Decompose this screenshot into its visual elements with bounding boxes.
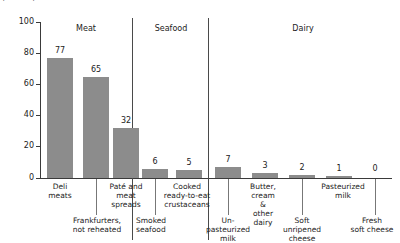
x-label-butter-line1: Butter, xyxy=(240,182,286,191)
x-label-fresh-soft-cheese: Fresh soft cheese xyxy=(344,216,400,234)
group-header-meat: Meat xyxy=(46,24,126,33)
bar-soft-unripened-cheese xyxy=(289,175,315,178)
bar-butter-cream-other-dairy xyxy=(252,173,278,178)
x-label-soft-line1: Soft xyxy=(277,216,327,225)
bar-value-fresh-soft-cheese: 0 xyxy=(362,165,388,173)
x-label-frankfurters-line1: Frankfurters, xyxy=(64,216,130,225)
bar-value-smoked-seafood: 6 xyxy=(142,158,168,166)
x-label-pate-line3: spreads xyxy=(99,200,153,209)
bar-value-deli-meats: 77 xyxy=(47,47,73,55)
x-label-deli-meats: Deli meats xyxy=(40,182,80,200)
bar-pasteurized-milk xyxy=(326,176,352,178)
x-label-unpasteurized-milk: Un- pasteurized milk xyxy=(204,216,252,243)
y-tick-label-20: 20 xyxy=(6,142,34,150)
x-label-butter-line3: & xyxy=(240,200,286,209)
x-label-pate-line2: meat xyxy=(99,191,153,200)
y-tick-mark-20 xyxy=(36,146,41,147)
y-tick-label-0: 0 xyxy=(6,174,34,182)
connector-unpasteurized-milk xyxy=(228,179,229,215)
y-tick-mark-40 xyxy=(36,115,41,116)
bar-pate-meat-spreads xyxy=(113,128,139,178)
x-label-pasteurized-line1: Pasteurized xyxy=(310,182,376,191)
x-label-fresh-line2: soft cheese xyxy=(344,225,400,234)
x-label-cooked-line3: crustaceans xyxy=(160,200,214,209)
x-label-smoked-seafood: Smoked seafood xyxy=(136,216,182,234)
x-label-frankfurters-line2: not reheated xyxy=(64,225,130,234)
bar-frankfurters xyxy=(83,77,109,178)
bar-value-frankfurters: 65 xyxy=(83,66,109,74)
x-label-cooked-crustaceans: Cooked ready-to-eat crustaceans xyxy=(160,182,214,209)
y-axis-line xyxy=(40,22,41,178)
bar-value-cooked-crustaceans: 5 xyxy=(176,159,202,167)
x-label-cooked-line2: ready-to-eat xyxy=(160,191,214,200)
y-tick-label-100: 100 xyxy=(6,18,34,26)
x-label-fresh-line1: Fresh xyxy=(344,216,400,225)
x-axis-baseline xyxy=(40,178,392,179)
bar-value-unpasteurized-milk: 7 xyxy=(215,156,241,164)
connector-soft-unripened-cheese xyxy=(302,179,303,215)
x-label-pate-meat-spreads: Paté and meat spreads xyxy=(99,182,153,209)
connector-frankfurters xyxy=(96,179,97,215)
bar-deli-meats xyxy=(47,58,73,178)
chart-caption: (millions) xyxy=(2,0,35,2)
x-label-soft-line2: unripened xyxy=(277,225,327,234)
connector-smoked-seafood xyxy=(155,179,156,215)
x-label-unpasteurized-line1: Un- xyxy=(204,216,252,225)
bar-value-pate-meat-spreads: 32 xyxy=(113,117,139,125)
x-label-deli-meats-line1: Deli xyxy=(40,182,80,191)
x-label-soft-line3: cheese xyxy=(277,234,327,243)
x-label-pate-line1: Paté and xyxy=(99,182,153,191)
x-label-butter-line2: cream xyxy=(240,191,286,200)
group-header-seafood: Seafood xyxy=(138,24,204,33)
y-tick-mark-100 xyxy=(36,22,41,23)
x-label-deli-meats-line2: meats xyxy=(40,191,80,200)
x-label-unpasteurized-line3: milk xyxy=(204,234,252,243)
x-label-smoked-line2: seafood xyxy=(136,225,182,234)
bar-value-soft-unripened-cheese: 2 xyxy=(289,164,315,172)
y-tick-label-80: 80 xyxy=(6,49,34,57)
bar-smoked-seafood xyxy=(142,169,168,178)
group-header-dairy: Dairy xyxy=(214,24,392,33)
bar-value-butter-cream-other-dairy: 3 xyxy=(252,162,278,170)
bar-cooked-crustaceans xyxy=(176,170,202,178)
y-tick-label-60: 60 xyxy=(6,80,34,88)
bar-unpasteurized-milk xyxy=(215,167,241,178)
x-label-cooked-line1: Cooked xyxy=(160,182,214,191)
x-label-soft-unripened-cheese: Soft unripened cheese xyxy=(277,216,327,243)
y-tick-mark-60 xyxy=(36,84,41,85)
y-tick-label-40: 40 xyxy=(6,111,34,119)
bar-value-pasteurized-milk: 1 xyxy=(326,165,352,173)
y-tick-mark-80 xyxy=(36,53,41,54)
x-label-frankfurters: Frankfurters, not reheated xyxy=(64,216,130,234)
x-label-pasteurized-line2: milk xyxy=(310,191,376,200)
x-label-smoked-line1: Smoked xyxy=(136,216,182,225)
x-label-pasteurized-milk: Pasteurized milk xyxy=(310,182,376,200)
x-label-unpasteurized-line2: pasteurized xyxy=(204,225,252,234)
